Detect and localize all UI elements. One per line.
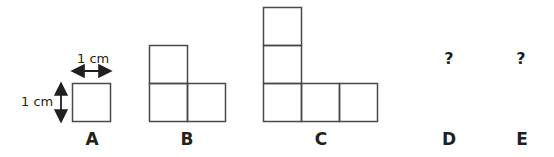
figure-e-label: E: [516, 131, 528, 148]
width-dimension-label: 1 cm: [77, 52, 109, 65]
figure-canvas: [0, 0, 554, 157]
figure-a-shape: [73, 84, 111, 122]
figure-c-label: C: [315, 131, 327, 148]
figure-b-shape: [150, 46, 226, 122]
figure-a-label: A: [85, 131, 98, 148]
figure-b-label: B: [181, 131, 194, 148]
figure-e-unknown: ?: [516, 51, 525, 67]
figure-d-unknown: ?: [444, 51, 453, 67]
figure-c-shape: [264, 8, 378, 122]
figure-d-label: D: [442, 131, 456, 148]
height-dimension-label: 1 cm: [21, 95, 53, 108]
